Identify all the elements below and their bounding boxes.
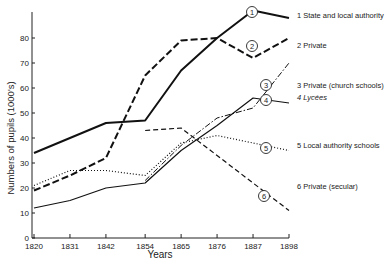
y-tick-label: 50 [20,109,29,118]
legend-item-5: 5 Local authority schools [297,141,380,150]
x-tick-label: 1820 [25,242,43,251]
x-tick-label: 1887 [244,242,262,251]
x-tick-label: 1876 [208,242,226,251]
legend-item-6: 6 Private (secular) [297,182,358,191]
y-axis-label: Numbers of pupils (1000's) [5,81,16,194]
legend-item-1: 1 State and local authority [297,11,384,20]
legend: 11 State and local authority22 Private33… [247,7,385,202]
line-chart: 0102030405060708018201831184218541865187… [0,0,390,264]
series-line-1 [34,11,289,154]
legend-item-4: 4 Lycées [297,93,327,102]
y-tick-label: 40 [20,134,29,143]
series-marker-number: 6 [262,192,266,201]
x-tick-label: 1842 [97,242,115,251]
series-marker-number: 5 [264,144,268,153]
y-tick-label: 20 [20,184,29,193]
series-marker-number: 3 [264,81,268,90]
series-line-4 [34,98,289,208]
y-tick-label: 10 [20,209,29,218]
x-tick-label: 1831 [61,242,79,251]
x-axis-label: Years [147,249,172,260]
y-tick-label: 30 [20,159,29,168]
y-tick-label: 80 [20,34,29,43]
y-tick-label: 60 [20,84,29,93]
x-tick-label: 1898 [280,242,298,251]
series-marker-number: 2 [250,42,254,51]
y-tick-label: 70 [20,59,29,68]
legend-item-2: 2 Private [297,41,327,50]
legend-item-3: 3 Private (church schools) [297,81,384,90]
series-marker-number: 4 [264,96,268,105]
series-line-5 [34,136,289,186]
series-marker-number: 1 [250,8,254,17]
x-tick-label: 1865 [172,242,190,251]
